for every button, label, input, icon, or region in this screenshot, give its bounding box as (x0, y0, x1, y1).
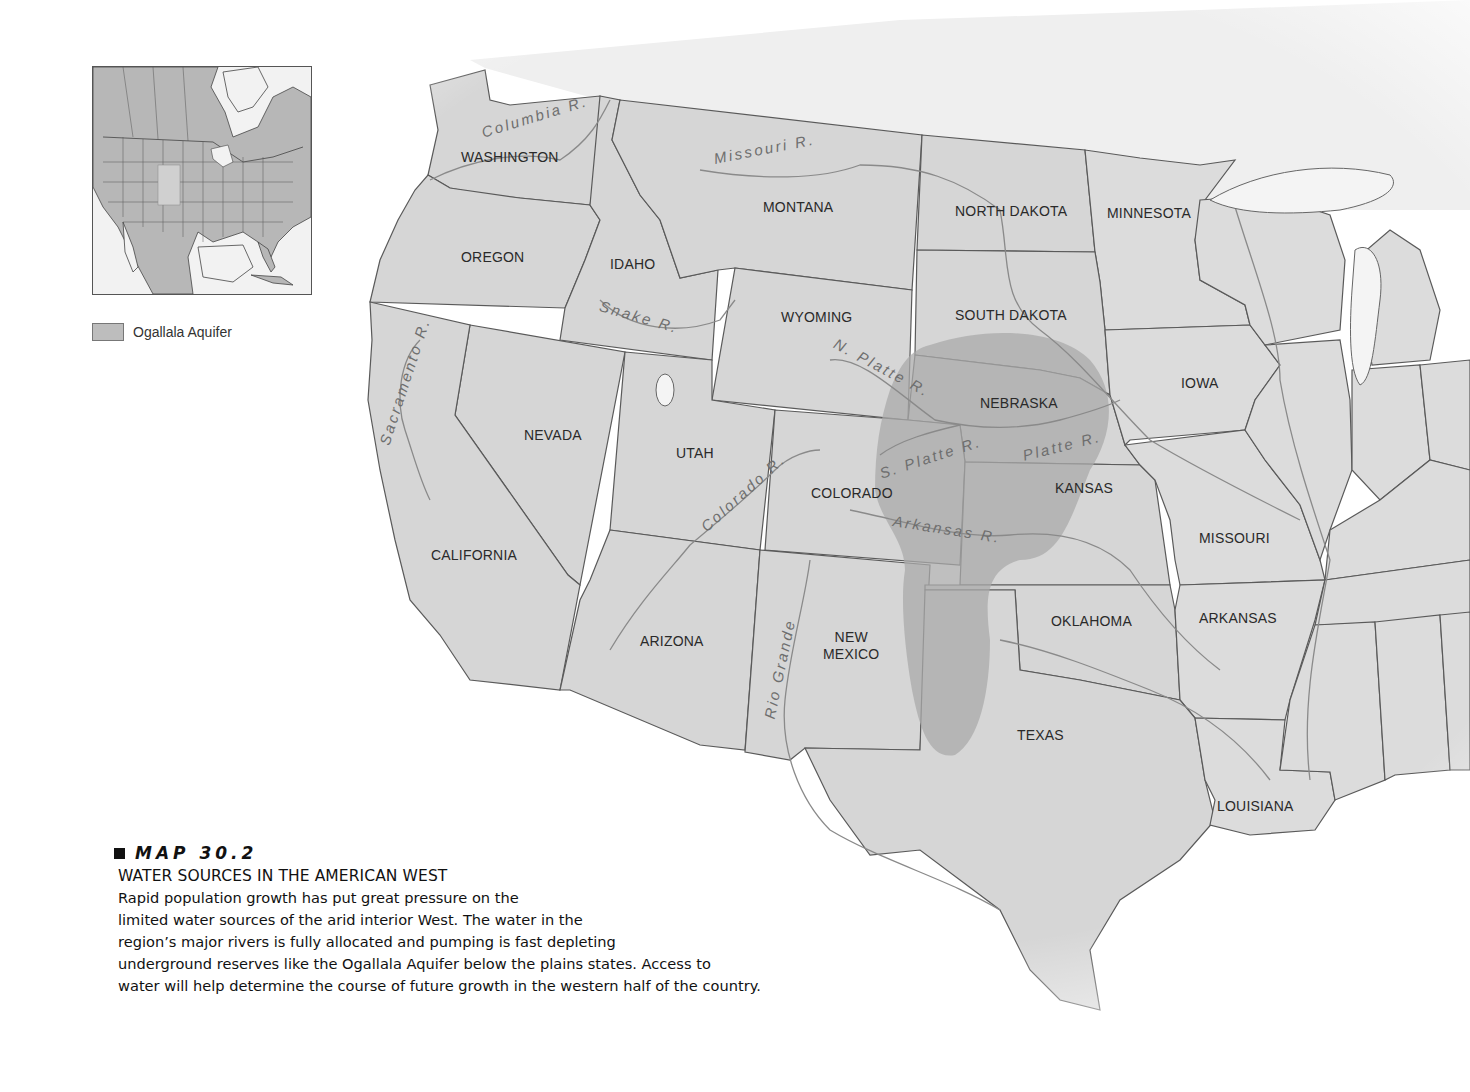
label-colorado: COLORADO (811, 485, 893, 502)
caption-bullet-icon (114, 848, 125, 859)
label-south-dakota: SOUTH DAKOTA (955, 307, 1067, 324)
label-minnesota: MINNESOTA (1107, 205, 1191, 222)
label-wyoming: WYOMING (781, 309, 852, 326)
label-arkansas: ARKANSAS (1199, 610, 1277, 627)
label-nebraska: NEBRASKA (980, 395, 1058, 412)
label-washington: WASHINGTON (461, 149, 559, 166)
caption-body: Rapid population growth has put great pr… (118, 887, 878, 997)
label-kansas: KANSAS (1055, 480, 1113, 497)
label-texas: TEXAS (1017, 727, 1064, 744)
legend-label-aquifer: Ogallala Aquifer (133, 324, 232, 340)
inset-aquifer-highlight (158, 165, 180, 205)
label-missouri: MISSOURI (1199, 530, 1270, 547)
caption-line: water will help determine the course of … (118, 975, 878, 997)
caption-line: region’s major rivers is fully allocated… (118, 931, 878, 953)
label-idaho: IDAHO (610, 256, 655, 273)
map-number: MAP 30.2 (135, 843, 257, 863)
caption-line: Rapid population growth has put great pr… (118, 887, 878, 909)
label-california: CALIFORNIA (431, 547, 517, 564)
label-iowa: IOWA (1181, 375, 1219, 392)
label-oklahoma: OKLAHOMA (1051, 613, 1132, 630)
caption-line: underground reserves like the Ogallala A… (118, 953, 878, 975)
label-nevada: NEVADA (524, 427, 582, 444)
label-utah: UTAH (676, 445, 714, 462)
aquifer-swatch-icon (92, 323, 124, 341)
caption-line: limited water sources of the arid interi… (118, 909, 878, 931)
caption-title: WATER SOURCES IN THE AMERICAN WEST (118, 867, 878, 885)
label-arizona: ARIZONA (640, 633, 704, 650)
label-louisiana: LOUISIANA (1217, 798, 1294, 815)
label-north-dakota: NORTH DAKOTA (955, 203, 1067, 220)
label-new-mexico: NEW MEXICO (823, 629, 879, 663)
inset-locator-map (92, 66, 312, 295)
label-oregon: OREGON (461, 249, 524, 266)
map-legend: Ogallala Aquifer (92, 323, 232, 341)
inset-north-america (93, 67, 311, 294)
map-caption: MAP 30.2 WATER SOURCES IN THE AMERICAN W… (118, 843, 878, 997)
label-montana: MONTANA (763, 199, 833, 216)
